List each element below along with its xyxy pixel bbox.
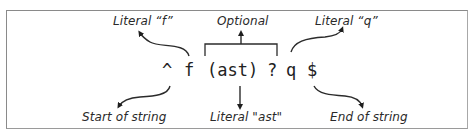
regex-token-f: f (184, 60, 194, 80)
regex-token-q: q (286, 60, 296, 80)
label-literal-q: Literal “q” (315, 14, 378, 28)
regex-token-dollar: $ (307, 60, 317, 80)
regex-token-caret: ^ (162, 60, 172, 80)
label-start-of-string: Start of string (82, 110, 166, 124)
arrow-literal-q (291, 29, 342, 52)
optional-bracket (205, 44, 277, 56)
arrow-literal-f (140, 33, 189, 56)
regex-token-group-ast: (ast) (207, 60, 258, 80)
label-literal-f: Literal “f” (113, 14, 173, 28)
arrow-start-of-string (119, 86, 170, 106)
label-literal-ast: Literal "ast" (210, 110, 282, 124)
regex-token-optional: ? (267, 60, 277, 80)
arrow-end-of-string (314, 86, 362, 106)
label-optional: Optional (217, 14, 269, 28)
label-end-of-string: End of string (330, 110, 408, 124)
